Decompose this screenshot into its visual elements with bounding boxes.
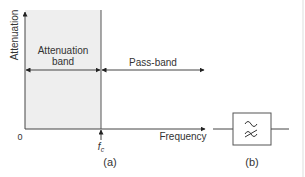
cutoff-label: fc [98, 141, 105, 153]
attenuation-band-label-line2: band [52, 56, 74, 67]
filter-box [233, 113, 271, 145]
attenuation-band-label-line1: Attenuation [38, 45, 89, 56]
caption-b: (b) [245, 156, 258, 168]
caption-a: (a) [103, 156, 116, 168]
pass-band-label: Pass-band [129, 57, 177, 68]
origin-label: 0 [17, 132, 22, 142]
x-axis-label: Frequency [159, 131, 206, 142]
y-axis-label: Attenuation [9, 10, 20, 61]
high-pass-filter-diagram: Attenuation Attenuation band Pass-band F… [0, 0, 305, 177]
